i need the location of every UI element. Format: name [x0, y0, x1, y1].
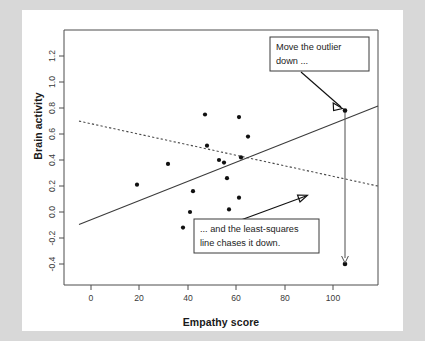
x-tick-label: 40 [183, 293, 193, 303]
annotation-leader-line [301, 72, 341, 107]
x-tick: 40 [183, 285, 193, 303]
data-point [191, 189, 195, 193]
y-tick-label: 0.4 [47, 154, 57, 166]
x-tick-label: 100 [326, 293, 341, 303]
y-tick: -0.4 [47, 256, 64, 271]
annotation-line-2: line chases it down. [200, 238, 280, 248]
y-tick-label: 0.2 [47, 180, 57, 192]
y-tick: 0.6 [47, 128, 64, 140]
data-point [237, 196, 241, 200]
data-point [166, 162, 170, 166]
data-point [205, 144, 209, 148]
x-axis-label: Empathy score [64, 316, 378, 328]
annotation-line-1: ... and the least-squares [200, 224, 299, 234]
annotation-arrowhead [298, 195, 308, 202]
y-tick: 0.2 [47, 180, 64, 192]
x-tick: 80 [280, 285, 290, 303]
data-point [181, 226, 185, 230]
y-tick-group: 1.2 1.0 0.8 0.6 0.4 0.2 [47, 50, 64, 272]
figure-container: 1.2 1.0 0.8 0.6 0.4 0.2 [0, 0, 425, 341]
data-point [225, 176, 229, 180]
y-tick: 0.4 [47, 154, 64, 166]
x-tick-label: 20 [134, 293, 144, 303]
y-tick: -0.2 [47, 230, 64, 245]
data-point [222, 161, 226, 165]
regression-line-dashed [79, 121, 378, 186]
x-tick: 100 [326, 285, 341, 303]
data-point [239, 155, 243, 159]
outlier-move-arrow [342, 112, 349, 263]
y-tick: 1.0 [47, 76, 64, 88]
annotation-line-1: Move the outlier [276, 42, 341, 52]
y-tick-label: 1.0 [47, 76, 57, 88]
y-tick: 0.8 [47, 102, 64, 114]
data-point [227, 207, 231, 211]
y-tick-label: 0.6 [47, 128, 57, 140]
x-tick: 0 [89, 285, 94, 303]
x-tick-label: 60 [231, 293, 241, 303]
y-tick-label: 1.2 [47, 50, 57, 62]
scatter-plot: 1.2 1.0 0.8 0.6 0.4 0.2 [0, 0, 425, 341]
annotation-line-chases[interactable]: ... and the least-squares line chases it… [194, 195, 319, 253]
annotation-move-outlier[interactable]: Move the outlier down ... [270, 37, 369, 111]
x-tick-label: 0 [89, 293, 94, 303]
y-tick-label: -0.4 [47, 256, 57, 271]
y-axis-label: Brain activity [32, 66, 44, 186]
annotation-line-2: down ... [276, 56, 308, 66]
regression-line-solid [79, 106, 378, 224]
x-tick-group: 0 20 40 60 80 100 [89, 285, 341, 303]
data-point [188, 210, 192, 214]
y-tick: 1.2 [47, 50, 64, 62]
x-tick-label: 80 [280, 293, 290, 303]
y-tick-label: -0.2 [47, 230, 57, 245]
y-tick-label: 0.0 [47, 206, 57, 218]
data-point [246, 135, 250, 139]
data-point [237, 115, 241, 119]
y-tick-label: 0.8 [47, 102, 57, 114]
data-point [217, 158, 221, 162]
data-point [203, 112, 207, 116]
x-tick: 20 [134, 285, 144, 303]
data-point [135, 183, 139, 187]
x-tick: 60 [231, 285, 241, 303]
y-tick: 0.0 [47, 206, 64, 218]
